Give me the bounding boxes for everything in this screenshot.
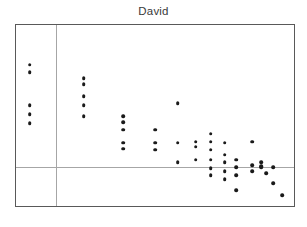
data-point xyxy=(223,153,227,157)
data-point xyxy=(153,141,157,145)
horizontal-gridline xyxy=(16,167,294,168)
data-point xyxy=(223,141,227,145)
data-point xyxy=(121,114,125,118)
data-point xyxy=(223,177,227,181)
chart-title: David xyxy=(0,4,307,18)
data-point xyxy=(251,164,255,168)
data-point xyxy=(259,166,263,170)
data-point xyxy=(82,114,86,118)
data-point xyxy=(209,158,213,162)
data-point xyxy=(251,140,255,144)
data-point xyxy=(235,166,239,170)
data-point xyxy=(82,83,86,87)
data-point xyxy=(251,170,255,174)
data-point xyxy=(82,103,86,107)
data-point xyxy=(28,71,32,75)
data-point xyxy=(176,161,180,165)
data-point xyxy=(82,77,86,81)
data-point xyxy=(209,167,213,171)
data-point xyxy=(209,148,213,152)
data-point xyxy=(235,188,239,192)
data-point xyxy=(121,128,125,132)
data-point xyxy=(280,193,284,197)
data-point xyxy=(235,174,239,178)
data-point xyxy=(271,166,275,170)
data-point xyxy=(82,94,86,98)
plot-area xyxy=(15,24,295,207)
data-point xyxy=(28,63,32,67)
data-point xyxy=(153,148,157,152)
data-point xyxy=(176,141,180,145)
data-point xyxy=(153,128,157,132)
data-point xyxy=(28,121,32,125)
data-point xyxy=(28,103,32,107)
data-point xyxy=(271,181,275,185)
data-point xyxy=(264,172,268,176)
data-point xyxy=(194,140,198,144)
data-point xyxy=(209,140,213,144)
data-point xyxy=(209,174,213,178)
data-point xyxy=(209,132,213,136)
data-point xyxy=(223,170,227,174)
data-point xyxy=(223,161,227,165)
data-point xyxy=(176,101,180,105)
scatter-chart: David xyxy=(0,0,307,227)
data-point xyxy=(121,141,125,145)
vertical-gridline xyxy=(56,25,57,206)
data-point xyxy=(121,147,125,151)
data-point xyxy=(194,145,198,149)
data-point xyxy=(121,120,125,124)
data-point xyxy=(28,112,32,116)
data-point xyxy=(194,158,198,162)
data-point xyxy=(235,158,239,162)
